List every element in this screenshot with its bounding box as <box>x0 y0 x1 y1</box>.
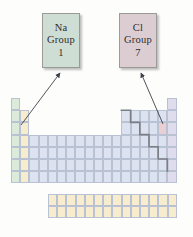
cell-g17-p4 <box>158 135 167 147</box>
cell-g12-p7 <box>112 171 121 183</box>
cell-g16-p4 <box>149 135 158 147</box>
cell-g9-p6 <box>85 159 94 171</box>
cell-g7-p6 <box>66 159 75 171</box>
cell-g16-p7 <box>149 171 158 183</box>
cell-g2-p6 <box>20 159 29 171</box>
cell-g5-p4 <box>48 135 57 147</box>
f-block-cell-r1-c4 <box>76 194 85 206</box>
cell-g4-p7 <box>39 171 48 183</box>
cell-g15-p3 <box>140 122 149 134</box>
cell-g13-p2 <box>121 110 130 122</box>
cell-g5-p5 <box>48 147 57 159</box>
cell-g2-p5 <box>20 147 29 159</box>
cell-g8-p6 <box>75 159 84 171</box>
cell-g15-p6 <box>140 159 149 171</box>
cell-g18-p5 <box>167 147 176 159</box>
cell-g14-p2 <box>131 110 140 122</box>
cell-g11-p7 <box>103 171 112 183</box>
cell-g2-p4 <box>20 135 29 147</box>
cell-g1-p7 <box>11 171 20 183</box>
cell-g3-p4 <box>29 135 38 147</box>
f-block-cell-r1-c9 <box>122 194 131 206</box>
f-block-cell-r1-c11 <box>140 194 149 206</box>
cell-g3-p7 <box>29 171 38 183</box>
cell-g2-p3 <box>20 122 29 134</box>
cell-g12-p4 <box>112 135 121 147</box>
cell-g4-p6 <box>39 159 48 171</box>
cell-g6-p5 <box>57 147 66 159</box>
sodium-cell <box>11 122 20 134</box>
cell-g7-p7 <box>66 171 75 183</box>
cell-g4-p5 <box>39 147 48 159</box>
callout-box-chlorine[interactable]: Cl Group 7 <box>119 13 157 68</box>
cell-g17-p2 <box>158 110 167 122</box>
periodic-table-diagram: Na Group 1 Cl Group 7 <box>0 0 193 237</box>
cell-g17-p6 <box>158 159 167 171</box>
f-block-cell-r1-c5 <box>85 194 94 206</box>
cell-g14-p6 <box>131 159 140 171</box>
cell-g15-p4 <box>140 135 149 147</box>
cell-g16-p3 <box>149 122 158 134</box>
f-block-cell-r2-c3 <box>66 206 75 218</box>
cell-g3-p5 <box>29 147 38 159</box>
cell-g11-p6 <box>103 159 112 171</box>
cell-g13-p3 <box>121 122 130 134</box>
cell-g18-p6 <box>167 159 176 171</box>
cell-g18-p2 <box>167 110 176 122</box>
cell-g14-p4 <box>131 135 140 147</box>
cell-g11-p5 <box>103 147 112 159</box>
f-block-cell-r2-c12 <box>149 206 158 218</box>
cell-g15-p5 <box>140 147 149 159</box>
f-block-cell-r2-c8 <box>112 206 121 218</box>
f-block-cell-r1-c8 <box>112 194 121 206</box>
cell-g5-p7 <box>48 171 57 183</box>
cell-g10-p7 <box>94 171 103 183</box>
callout-symbol-cl: Cl <box>133 22 143 34</box>
callout-group-label-na: Group <box>47 34 75 46</box>
cell-g5-p6 <box>48 159 57 171</box>
cell-g12-p5 <box>112 147 121 159</box>
callout-group-number-na: 1 <box>58 47 63 59</box>
cell-g17-p5 <box>158 147 167 159</box>
callout-group-number-cl: 7 <box>135 47 140 59</box>
cell-g7-p5 <box>66 147 75 159</box>
f-block-cell-r2-c2 <box>57 206 66 218</box>
cell-g14-p5 <box>131 147 140 159</box>
cell-g10-p5 <box>94 147 103 159</box>
f-block-cell-r2-c7 <box>103 206 112 218</box>
cell-g18-p4 <box>167 135 176 147</box>
f-block-cell-r2-c5 <box>85 206 94 218</box>
f-block-cell-r2-c9 <box>122 206 131 218</box>
chlorine-cell <box>158 122 167 134</box>
cell-g8-p7 <box>75 171 84 183</box>
f-block-cell-r1-c14 <box>168 194 177 206</box>
f-block-cell-r1-c13 <box>158 194 167 206</box>
f-block-cell-r1-c2 <box>57 194 66 206</box>
cell-g6-p7 <box>57 171 66 183</box>
cell-g2-p7 <box>20 171 29 183</box>
cell-g16-p5 <box>149 147 158 159</box>
cell-g6-p4 <box>57 135 66 147</box>
cell-g10-p4 <box>94 135 103 147</box>
cell-g18-p1 <box>167 98 176 110</box>
cell-g6-p6 <box>57 159 66 171</box>
f-block-cell-r2-c11 <box>140 206 149 218</box>
cell-g13-p5 <box>121 147 130 159</box>
f-block-cell-r1-c6 <box>94 194 103 206</box>
cell-g8-p4 <box>75 135 84 147</box>
cell-g2-p2 <box>20 110 29 122</box>
f-block-cell-r1-c1 <box>48 194 57 206</box>
cell-g11-p4 <box>103 135 112 147</box>
callout-group-label-cl: Group <box>124 34 152 46</box>
f-block-cell-r2-c14 <box>168 206 177 218</box>
f-block-cell-r1-c7 <box>103 194 112 206</box>
cell-g1-p5 <box>11 147 20 159</box>
cell-g9-p7 <box>85 171 94 183</box>
cell-g10-p6 <box>94 159 103 171</box>
callout-box-sodium[interactable]: Na Group 1 <box>42 13 80 68</box>
cell-g12-p6 <box>112 159 121 171</box>
cell-g13-p4 <box>121 135 130 147</box>
cell-g13-p6 <box>121 159 130 171</box>
f-block-cell-r2-c13 <box>158 206 167 218</box>
f-block-cell-r1-c12 <box>149 194 158 206</box>
